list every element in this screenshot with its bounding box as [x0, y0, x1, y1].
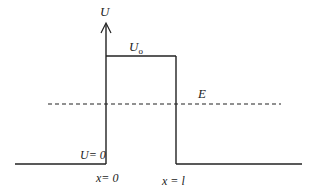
right-edge-label: x = l [162, 174, 185, 189]
barrier-height-symbol: U [129, 39, 138, 54]
energy-label: E [198, 86, 206, 102]
y-axis-label: U [100, 4, 109, 20]
barrier-height-subscript: o [138, 46, 143, 56]
diagram-canvas [0, 0, 316, 194]
left-edge-label: x= 0 [96, 171, 118, 186]
potential-barrier-diagram: U Uo E U= 0 x= 0 x = l [0, 0, 316, 194]
barrier-height-label: Uo [129, 39, 143, 55]
zero-potential-label: U= 0 [80, 148, 106, 163]
